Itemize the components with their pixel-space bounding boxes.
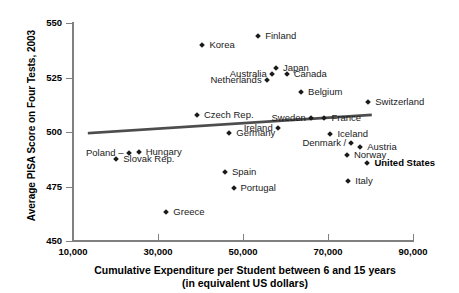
- diamond-marker-icon: [200, 42, 206, 48]
- diamond-marker-icon: [322, 115, 328, 121]
- diamond-marker-icon: [308, 115, 314, 121]
- y-tick-525: [66, 78, 72, 79]
- x-tick-label-30000: 30,000: [128, 246, 188, 257]
- y-axis-line: [72, 22, 74, 242]
- x-tick-label-70000: 70,000: [298, 246, 358, 257]
- data-point-label-belgium: Belgium: [308, 87, 342, 97]
- y-tick-475: [66, 187, 72, 188]
- diamond-marker-icon: [113, 156, 119, 162]
- diamond-marker-icon: [275, 125, 281, 131]
- y-tick-500: [66, 132, 72, 133]
- data-point-label-greece: Greece: [173, 207, 204, 217]
- diamond-marker-icon: [344, 152, 350, 158]
- data-point-label-netherlands: Netherlands: [210, 75, 261, 85]
- data-point-label-italy: Italy: [355, 176, 372, 186]
- x-tick-30000: [158, 234, 159, 240]
- diamond-marker-icon: [269, 71, 275, 77]
- diamond-marker-icon: [345, 178, 351, 184]
- data-point-label-portugal: Portugal: [241, 183, 276, 193]
- data-point-label-poland: Poland –: [86, 148, 124, 158]
- y-tick-550: [66, 23, 72, 24]
- data-point-label-switzerland: Switzerland: [375, 97, 424, 107]
- diamond-marker-icon: [264, 77, 270, 83]
- data-point-label-germany: Germany: [236, 128, 275, 138]
- x-axis-title-line1: Cumulative Expenditure per Student betwe…: [60, 264, 430, 277]
- diamond-marker-icon: [231, 185, 237, 191]
- data-point-label-canada: Canada: [294, 69, 327, 79]
- diamond-marker-icon: [348, 140, 354, 146]
- x-tick-70000: [328, 234, 329, 240]
- x-tick-label-90000: 90,000: [383, 246, 443, 257]
- data-point-label-sweden: Sweden: [272, 113, 306, 123]
- data-point-label-denmark: Denmark /: [302, 138, 346, 148]
- diamond-marker-icon: [284, 71, 290, 77]
- data-point-label-spain: Spain: [232, 167, 256, 177]
- data-point-label-united-states: United States: [374, 158, 435, 168]
- diamond-marker-icon: [365, 99, 371, 105]
- x-axis-title-line2: (in equivalent US dollars): [60, 277, 430, 290]
- x-tick-label-10000: 10,000: [43, 246, 103, 257]
- data-point-label-czech-rep: Czech Rep.: [204, 110, 254, 120]
- data-point-label-slovak-rep: Slovak Rep.: [123, 154, 174, 164]
- diamond-marker-icon: [273, 65, 279, 71]
- diamond-marker-icon: [365, 160, 371, 166]
- data-point-label-korea: Korea: [209, 40, 234, 50]
- data-point-label-finland: Finland: [265, 31, 296, 41]
- y-axis-title: Average PISA Score on Four Tests, 2003: [26, 26, 37, 226]
- x-tick-50000: [243, 234, 244, 240]
- y-tick-label-450: 450: [28, 236, 62, 246]
- x-tick-10000: [73, 234, 74, 240]
- x-tick-90000: [413, 234, 414, 240]
- diamond-marker-icon: [255, 33, 261, 39]
- diamond-marker-icon: [222, 170, 228, 176]
- diamond-marker-icon: [164, 209, 170, 215]
- x-axis-line: [72, 240, 414, 242]
- diamond-marker-icon: [226, 130, 232, 136]
- diamond-marker-icon: [194, 112, 200, 118]
- diamond-marker-icon: [298, 89, 304, 95]
- x-axis-title: Cumulative Expenditure per Student betwe…: [60, 264, 430, 290]
- data-point-label-france: France: [331, 113, 361, 123]
- scatter-chart: 450475500525550 Average PISA Score on Fo…: [0, 0, 459, 293]
- x-tick-label-50000: 50,000: [213, 246, 273, 257]
